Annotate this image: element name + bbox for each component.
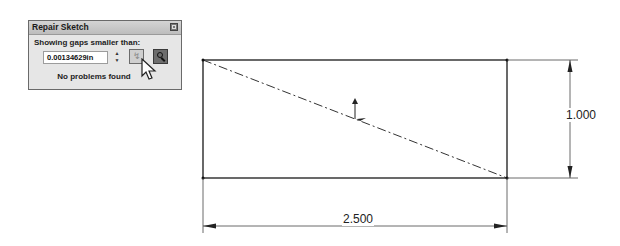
height-dimension[interactable]: 1.000	[566, 108, 596, 122]
sketch-canvas[interactable]	[0, 0, 620, 246]
width-dimension[interactable]: 2.500	[342, 212, 374, 226]
